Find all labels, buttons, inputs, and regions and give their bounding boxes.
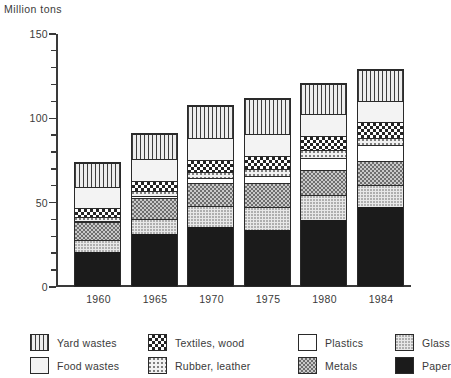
plot-area: 050100150 196019651970197519801984 [56,34,411,287]
segment-yard-wastes [245,99,290,134]
segment-metals [188,183,233,206]
legend-swatch [148,334,167,351]
segment-textiles-wood [132,181,177,191]
bar-1984: 1984 [357,69,404,287]
segment-food-wastes [75,187,120,208]
segment-textiles-wood [358,122,403,137]
segment-yard-wastes [301,84,346,114]
legend-item-food-wastes: Food wastes [30,357,148,374]
segment-glass [358,185,403,207]
segment-food-wastes [358,101,403,123]
segment-paper [132,234,177,286]
x-tick-label: 1984 [358,293,405,305]
segment-glass [132,219,177,234]
x-tick-label: 1970 [188,293,235,305]
legend-label: Yard wastes [57,337,117,349]
segment-textiles-wood [188,160,233,172]
segment-food-wastes [132,159,177,181]
legend-label: Metals [325,360,357,372]
legend-item-metals: Metals [298,357,395,374]
y-axis-title: Million tons [4,3,62,15]
segment-plastics [245,176,290,184]
segment-food-wastes [188,138,233,160]
segment-rubber-leather [358,138,403,146]
legend-swatch [298,334,317,351]
x-tick-label: 1980 [301,293,348,305]
segment-food-wastes [245,134,290,156]
legend-label: Rubber, leather [175,360,251,372]
segment-textiles-wood [301,136,346,150]
bar-1960: 1960 [74,162,121,287]
segment-paper [188,227,233,286]
segment-metals [75,222,120,241]
y-tick-label: 0 [42,281,48,293]
segment-yard-wastes [188,106,233,139]
legend-swatch [298,357,317,374]
y-tick-major [49,286,56,288]
segment-rubber-leather [245,169,290,176]
legend-swatch [395,334,414,351]
x-tick-label: 1960 [75,293,122,305]
segment-glass [75,240,120,252]
legend-swatch [148,357,167,374]
bar-1975: 1975 [244,98,291,287]
x-tick-label: 1975 [245,293,292,305]
segment-textiles-wood [75,208,120,216]
segment-glass [301,195,346,220]
bar-1970: 1970 [187,105,234,287]
y-tick-major [49,118,56,120]
segment-food-wastes [301,114,346,136]
segment-yard-wastes [75,163,120,187]
legend-item-paper: Paper [395,357,451,374]
y-tick-major [49,202,56,204]
segment-metals [132,198,177,218]
legend-swatch [395,357,414,374]
legend-item-rubber-leather: Rubber, leather [148,357,298,374]
y-tick-label: 50 [36,197,48,209]
legend-label: Food wastes [57,360,119,372]
legend-label: Plastics [325,337,363,349]
x-tick-label: 1965 [132,293,179,305]
segment-paper [358,207,403,286]
y-tick-label: 150 [30,28,48,40]
legend-swatch [30,334,49,351]
bar-1980: 1980 [300,83,347,287]
legend-item-yard-wastes: Yard wastes [30,334,148,351]
segment-yard-wastes [132,134,177,158]
legend-item-glass: Glass [395,334,451,351]
bar-1965: 1965 [131,133,178,287]
segment-metals [301,170,346,194]
segment-paper [75,252,120,286]
y-tick-label: 100 [30,112,48,124]
segment-glass [245,207,290,231]
y-tick-major [49,33,56,35]
chart-legend: Yard wastesTextiles, woodPlasticsGlassFo… [30,331,415,377]
segment-plastics [301,158,346,171]
segment-metals [245,183,290,207]
legend-item-textiles-wood: Textiles, wood [148,334,298,351]
segment-rubber-leather [301,150,346,158]
legend-item-plastics: Plastics [298,334,395,351]
segment-plastics [358,145,403,161]
segment-metals [358,161,403,185]
segment-paper [301,220,346,286]
legend-swatch [30,357,49,374]
legend-label: Paper [422,360,451,372]
segment-textiles-wood [245,156,290,169]
segment-yard-wastes [358,70,403,100]
segment-glass [188,206,233,227]
legend-label: Textiles, wood [175,337,244,349]
legend-label: Glass [422,337,450,349]
bar-group: 196019651970197519801984 [56,34,411,287]
segment-paper [245,230,290,286]
